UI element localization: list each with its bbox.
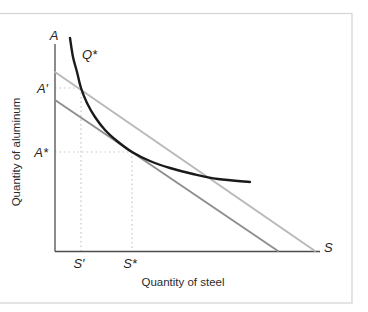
s-star-label: S* — [123, 256, 138, 271]
isocost-line-inner — [55, 100, 278, 251]
y-axis-end-label: A — [49, 28, 59, 43]
isocost-line-outer — [55, 72, 315, 251]
a-prime-label: A′ — [36, 81, 49, 96]
s-prime-label: S′ — [73, 256, 85, 271]
x-axis-title: Quantity of steel — [141, 276, 224, 288]
guide-a-star — [55, 152, 132, 252]
economics-figure: A Q* A′ A* S′ S* S Quantity of steel Qua… — [0, 0, 368, 312]
isoquant-label: Q* — [82, 47, 98, 62]
figure-canvas: A Q* A′ A* S′ S* S Quantity of steel Qua… — [0, 0, 368, 312]
a-star-label: A* — [33, 145, 49, 160]
figure-frame — [0, 14, 352, 304]
y-axis-title: Quantity of aluminum — [10, 98, 22, 207]
x-axis-end-label: S — [324, 240, 333, 255]
guide-a-prime — [55, 88, 81, 252]
